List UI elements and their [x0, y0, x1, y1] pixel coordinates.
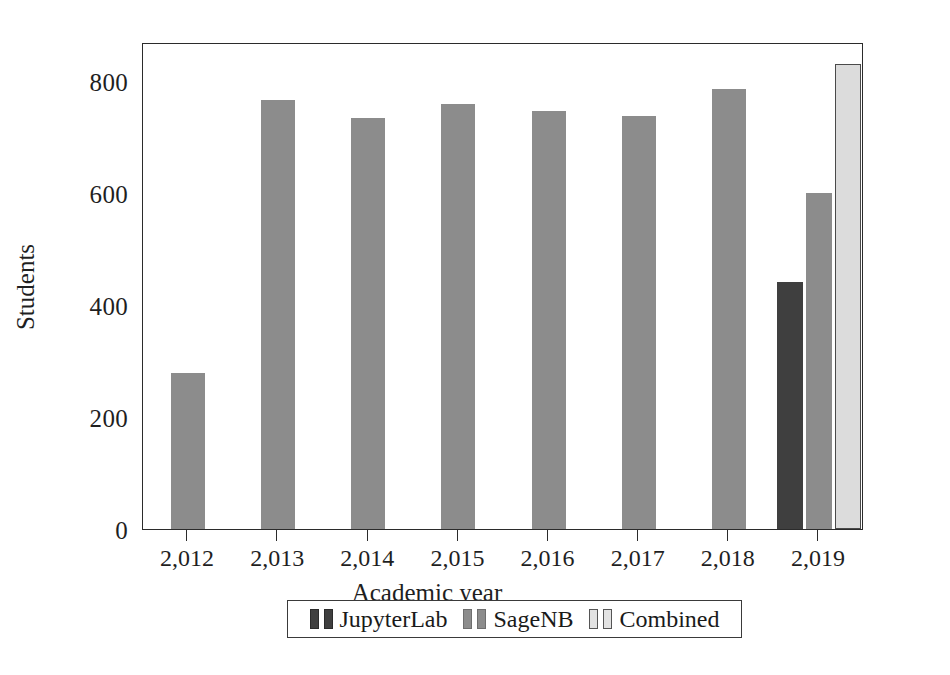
legend-swatch-icon	[603, 609, 612, 629]
x-tick-mark	[186, 530, 187, 541]
y-tick-label: 400	[60, 294, 128, 319]
bar-sagenb-2016	[532, 111, 566, 529]
legend-swatch-pair	[463, 609, 486, 629]
y-tick-label: 600	[60, 182, 128, 207]
bar-sagenb-2015	[441, 104, 475, 529]
x-tick-mark	[457, 530, 458, 541]
bar-sagenb-2017	[622, 116, 656, 529]
y-tick-label: 0	[60, 518, 128, 543]
legend-swatch-icon	[310, 609, 319, 629]
x-tick-label: 2,019	[791, 546, 845, 570]
bar-sagenb-2018	[712, 89, 746, 529]
legend-swatch-pair	[310, 609, 333, 629]
legend-entry-jupyterlab[interactable]: JupyterLab	[310, 607, 448, 631]
bars-layer	[143, 44, 862, 529]
x-tick-mark	[367, 530, 368, 541]
plot-area	[142, 43, 863, 530]
chart-legend: JupyterLabSageNBCombined	[287, 600, 742, 638]
legend-swatch-pair	[589, 609, 612, 629]
legend-label: SageNB	[491, 607, 573, 631]
bar-sagenb-2013	[261, 100, 295, 529]
legend-swatch-icon	[589, 609, 598, 629]
x-tick-label: 2,018	[701, 546, 755, 570]
legend-label: Combined	[617, 607, 719, 631]
bar-sagenb-2012	[171, 373, 205, 529]
x-tick-mark	[817, 530, 818, 541]
y-tick-label: 800	[60, 70, 128, 95]
x-tick-mark	[276, 530, 277, 541]
x-tick-label: 2,015	[430, 546, 484, 570]
x-tick-label: 2,016	[521, 546, 575, 570]
x-tick-mark	[547, 530, 548, 541]
x-tick-label: 2,012	[160, 546, 214, 570]
legend-label: JupyterLab	[338, 607, 448, 631]
bar-combined-2019	[835, 64, 861, 529]
y-tick-label: 200	[60, 406, 128, 431]
x-tick-mark	[637, 530, 638, 541]
x-tick-label: 2,014	[340, 546, 394, 570]
x-tick-mark	[727, 530, 728, 541]
legend-swatch-icon	[324, 609, 333, 629]
x-tick-label: 2,017	[611, 546, 665, 570]
x-tick-label: 2,013	[250, 546, 304, 570]
legend-entry-combined[interactable]: Combined	[589, 607, 719, 631]
bar-jupyterlab-2019	[777, 282, 803, 529]
legend-entry-sagenb[interactable]: SageNB	[463, 607, 573, 631]
legend-swatch-icon	[463, 609, 472, 629]
legend-swatch-icon	[477, 609, 486, 629]
bar-sagenb-2014	[351, 118, 385, 529]
bar-sagenb-2019	[806, 193, 832, 529]
y-axis-label: Students	[12, 244, 40, 330]
bar-chart-figure: Students 8006004002000 2,0122,0132,0142,…	[0, 0, 950, 675]
